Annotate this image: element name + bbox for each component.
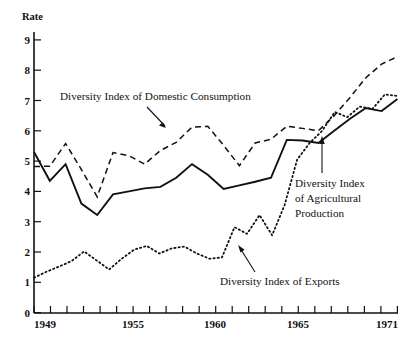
annotation-agricultural-production: Diversity Index of Agricultural Producti… [295,136,365,219]
annotation-agricultural-production-line2: of Agricultural [295,192,361,204]
y-tick-label: 7 [25,95,31,107]
x-axis-tick-labels: 1949 1955 1960 1965 1971 [34,318,398,330]
arrowhead-icon [238,245,245,253]
y-tick-label: 4 [25,185,31,197]
x-tick-label-1960: 1960 [204,318,227,330]
y-tick-label: 5 [25,155,31,167]
y-axis-ticks [34,40,41,313]
leader-line [240,248,255,272]
y-tick-label: 1 [25,276,31,288]
y-axis-title: Rate [22,11,43,22]
x-tick-label-1955: 1955 [122,318,145,330]
y-tick-label: 9 [25,34,31,46]
series-domestic-consumption-line [34,57,397,197]
x-tick-label-1965: 1965 [287,318,310,330]
y-tick-label: 0 [25,307,31,319]
annotation-agricultural-production-line3: Production [295,207,345,219]
line-chart-plot: Rate 0 1 2 3 4 5 6 7 8 9 [0,0,407,348]
chart-container: Rate 0 1 2 3 4 5 6 7 8 9 [0,0,407,348]
annotation-exports-label: Diversity Index of Exports [220,275,340,287]
annotation-exports: Diversity Index of Exports [220,245,340,287]
annotation-agricultural-production-line1: Diversity Index [295,177,365,189]
annotation-domestic-consumption-label: Diversity Index of Domestic Consumption [60,90,251,102]
x-tick-label-1971: 1971 [376,318,398,330]
y-tick-label: 6 [25,125,31,137]
x-axis-ticks [34,306,397,313]
x-tick-label-1949: 1949 [34,318,57,330]
y-tick-label: 2 [25,246,31,258]
y-tick-label: 8 [25,64,31,76]
annotation-domestic-consumption: Diversity Index of Domestic Consumption [60,90,251,128]
y-tick-label: 3 [25,216,31,228]
arrowhead-icon [319,136,325,144]
y-axis-tick-labels: 0 1 2 3 4 5 6 7 8 9 [25,34,31,319]
arrowhead-icon [159,122,166,128]
